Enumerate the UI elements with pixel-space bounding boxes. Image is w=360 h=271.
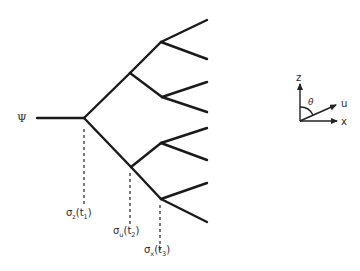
z-axis-label: z bbox=[296, 72, 301, 83]
branching-tree-diagram: Ψ σz(t1) σu(t2) σx(t3) bbox=[0, 0, 360, 271]
measurement-1-label: σz(t1) bbox=[66, 207, 92, 221]
level-2-branches bbox=[130, 42, 162, 199]
level-3-branches bbox=[161, 20, 207, 222]
u-axis-label: u bbox=[341, 98, 347, 109]
theta-arc bbox=[300, 107, 313, 115]
psi-label: Ψ bbox=[17, 112, 27, 125]
level-1-branches bbox=[84, 73, 131, 167]
theta-label: θ bbox=[308, 97, 314, 107]
measurement-2-label: σu(t2) bbox=[113, 225, 139, 239]
coordinate-axes: z u x θ bbox=[296, 72, 347, 127]
measurement-3-label: σx(t3) bbox=[144, 244, 170, 258]
x-axis-label: x bbox=[341, 116, 347, 127]
